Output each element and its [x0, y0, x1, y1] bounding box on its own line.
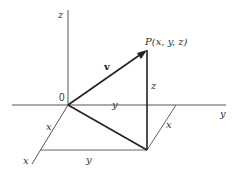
x-component-left-label: x [46, 121, 52, 132]
x-guide-right [147, 105, 176, 150]
vector-label: v [103, 61, 111, 72]
base-diagonal [68, 105, 147, 150]
y-component-bottom-label: y [85, 154, 92, 165]
z-axis-label: z [57, 9, 64, 20]
x-axis-label: x [23, 155, 29, 166]
y-component-top-label: y [111, 99, 118, 110]
origin-label: 0 [59, 92, 65, 103]
vector-arrowhead [137, 50, 147, 59]
point-label: P(x, y, z) [144, 36, 188, 47]
y-axis-label: y [219, 108, 226, 119]
x-axis [32, 105, 68, 164]
x-component-right-label: x [166, 119, 172, 130]
z-component-label: z [150, 80, 157, 91]
coordinate-diagram: z y x 0 P(x, y, z) v z y y x x [0, 0, 236, 173]
vector-v [68, 52, 144, 105]
